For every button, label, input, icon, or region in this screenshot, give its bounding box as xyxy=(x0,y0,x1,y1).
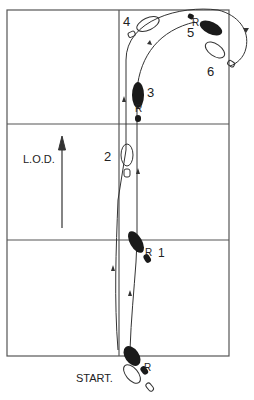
floor-grid xyxy=(7,10,229,356)
step-3-foot-marker: R xyxy=(135,104,142,114)
lod-label: L.O.D. xyxy=(23,154,55,165)
start-foot-marker: R xyxy=(144,363,151,373)
lod-arrow-icon xyxy=(59,136,66,228)
step-1-foot-marker: R xyxy=(145,248,152,258)
step-paths xyxy=(116,9,247,350)
step-2-number: 2 xyxy=(104,150,111,163)
step-5-foot-marker: R xyxy=(192,18,199,28)
start-label: START. xyxy=(76,373,113,384)
floor-pattern-diagram xyxy=(0,0,254,400)
step-6-number: 6 xyxy=(207,65,214,78)
step-1-number: 1 xyxy=(158,247,165,259)
step-3-number: 3 xyxy=(147,86,154,99)
step-3-foot xyxy=(132,82,144,122)
step-4-number: 4 xyxy=(123,15,130,28)
